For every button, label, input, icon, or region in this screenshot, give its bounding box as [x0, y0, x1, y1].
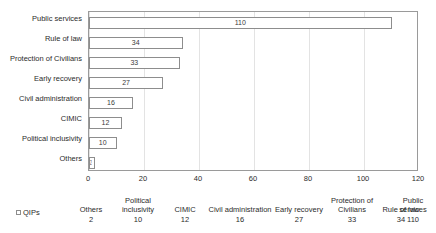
table-column-civil-administration: Civil administration 16	[204, 190, 276, 230]
category-label-cimic: CIMIC	[0, 114, 82, 123]
bar-value-public-services: 110	[89, 18, 392, 28]
bar-value-civil-administration: 16	[89, 98, 133, 108]
category-label-others: Others	[0, 154, 82, 163]
table-value-political-inclusivity: 10	[110, 215, 166, 224]
category-axis-labels: Public services Rule of law Protection o…	[0, 11, 86, 171]
x-tick-100: 100	[357, 174, 370, 183]
quick-impact-projects-bar-chart: Public services Rule of law Protection o…	[0, 0, 436, 233]
x-tick-120: 120	[412, 174, 425, 183]
x-tick-60: 60	[249, 174, 257, 183]
category-label-protection-of-civilians: Protection of Civilians	[0, 54, 82, 63]
bar-value-cimic: 12	[89, 118, 122, 128]
table-column-cimic: CIMIC 12	[160, 190, 210, 230]
plot-box: 110 34 33 27 16	[88, 11, 418, 171]
legend-swatch-icon	[16, 210, 21, 215]
table-header-civil-administration: Civil administration	[204, 205, 276, 214]
category-label-rule-of-law: Rule of law	[0, 34, 82, 43]
table-column-public-services: Public services 110	[390, 190, 436, 230]
table-value-protection-of-civilians: 33	[320, 215, 384, 224]
x-tick-40: 40	[194, 174, 202, 183]
plot-area-wrapper: Public services Rule of law Protection o…	[0, 0, 436, 186]
category-label-civil-administration: Civil administration	[0, 94, 82, 103]
x-tick-0: 0	[86, 174, 90, 183]
x-axis-tick-labels: 0 20 40 60 80 100 120	[88, 172, 418, 186]
bar-value-rule-of-law: 34	[89, 38, 183, 48]
x-tick-20: 20	[139, 174, 147, 183]
table-header-protection-of-civilians: Protection of Civilians	[320, 196, 384, 214]
data-table: QIPs Others 2 Political inclusivity 10 C…	[0, 190, 436, 233]
bar-value-others: 2	[90, 158, 95, 168]
table-value-civil-administration: 16	[204, 215, 276, 224]
table-value-cimic: 12	[160, 215, 210, 224]
category-label-early-recovery: Early recovery	[0, 74, 82, 83]
table-column-political-inclusivity: Political inclusivity 10	[110, 190, 166, 230]
legend-label-qips: QIPs	[23, 208, 40, 217]
bar-value-protection-of-civilians: 33	[89, 58, 180, 68]
bars-layer: 110 34 33 27 16	[89, 12, 417, 170]
category-label-political-inclusivity: Political inclusivity	[0, 134, 82, 143]
bar-value-political-inclusivity: 10	[89, 138, 117, 148]
table-header-public-services: Public services	[390, 196, 436, 214]
bar-value-early-recovery: 27	[89, 78, 163, 88]
table-value-public-services: 110	[390, 215, 436, 224]
table-header-political-inclusivity: Political inclusivity	[110, 196, 166, 214]
table-column-early-recovery: Early recovery 27	[274, 190, 324, 230]
x-tick-80: 80	[304, 174, 312, 183]
table-header-cimic: CIMIC	[160, 205, 210, 214]
table-header-early-recovery: Early recovery	[274, 205, 324, 214]
table-value-early-recovery: 27	[274, 215, 324, 224]
category-label-public-services: Public services	[0, 14, 82, 23]
table-column-protection-of-civilians: Protection of Civilians 33	[320, 190, 384, 230]
